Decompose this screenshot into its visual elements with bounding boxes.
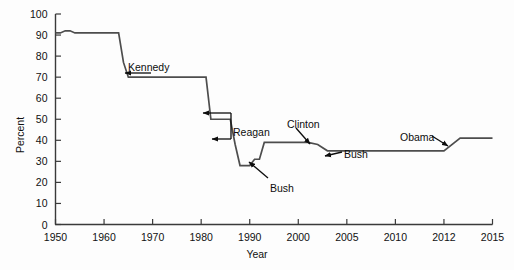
y-axis-title: Percent [14, 117, 26, 153]
x-tick-label: 1980 [189, 231, 212, 243]
y-tick-label: 0 [0, 219, 48, 231]
y-tick-label: 100 [0, 8, 48, 20]
annotation-label-bush-41: Bush [270, 182, 294, 194]
x-tick-label: 2010 [384, 231, 407, 243]
y-tick-label: 90 [0, 29, 48, 41]
x-tick-label: 2012 [432, 231, 455, 243]
bush-43-arrow [325, 152, 342, 156]
x-axis-ticks [56, 219, 493, 225]
y-tick-label: 70 [0, 71, 48, 83]
x-tick-label: 1960 [92, 231, 115, 243]
annotation-label-obama: Obama [400, 131, 434, 143]
x-tick-label: 2015 [481, 231, 504, 243]
annotation-label-clinton: Clinton [287, 118, 320, 130]
tax-rate-line-chart: 0102030405060708090100 19501960197019801… [0, 0, 514, 270]
x-tick-label: 2005 [335, 231, 358, 243]
x-tick-label: 1950 [44, 231, 67, 243]
data-series-line [56, 31, 493, 166]
x-axis-title: Year [246, 248, 267, 260]
annotation-label-kennedy: Kennedy [128, 61, 169, 73]
y-tick-label: 20 [0, 176, 48, 188]
x-tick-label: 1990 [238, 231, 261, 243]
annotation-label-reagan: Reagan [233, 126, 270, 138]
x-tick-label: 2000 [287, 231, 310, 243]
y-tick-label: 60 [0, 92, 48, 104]
bush-41-arrow [249, 162, 268, 178]
annotation-label-bush-43: Bush [344, 148, 368, 160]
x-tick-label: 1970 [141, 231, 164, 243]
y-tick-label: 80 [0, 50, 48, 62]
y-axis-ticks [56, 14, 62, 225]
y-tick-label: 30 [0, 155, 48, 167]
y-tick-label: 10 [0, 197, 48, 209]
